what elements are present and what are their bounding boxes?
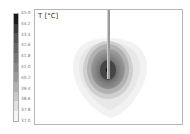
colorbar-segment: [14, 72, 18, 82]
colorbar-segment: [14, 63, 18, 73]
colorbar-tick: 37.8: [21, 107, 31, 112]
colorbar-tick: 43.4: [21, 32, 31, 37]
colorbar-tick: 40.2: [21, 75, 31, 80]
colorbar-tick: 39.4: [21, 86, 31, 91]
colorbar-labels: 45.0 44.2 43.4 42.6 41.8 41.0 40.2 39.4 …: [21, 10, 35, 125]
heatmap-plot: T [°C]: [34, 9, 183, 125]
colorbar-segment: [14, 14, 18, 24]
plot-title: T [°C]: [38, 12, 58, 20]
colorbar-tick: 45.0: [21, 10, 31, 15]
colorbar-tick: 42.6: [21, 42, 31, 47]
colorbar-segment: [14, 33, 18, 43]
colorbar-tick: 38.6: [21, 96, 31, 101]
colorbar-segment: [14, 101, 18, 111]
colorbar-segment: [14, 43, 18, 53]
colorbar-tick: 44.2: [21, 21, 31, 26]
colorbar-segment: [14, 53, 18, 63]
colorbar-tick: 37.0: [21, 118, 31, 123]
colorbar-tick: 41.8: [21, 53, 31, 58]
colorbar-segment: [14, 92, 18, 102]
colorbar-segment: [14, 111, 18, 121]
colorbar-segment: [14, 24, 18, 34]
colorbar-segment: [14, 82, 18, 92]
colorbar-tick: 41.0: [21, 64, 31, 69]
probe-line: [107, 10, 110, 79]
colorbar: [13, 13, 19, 122]
